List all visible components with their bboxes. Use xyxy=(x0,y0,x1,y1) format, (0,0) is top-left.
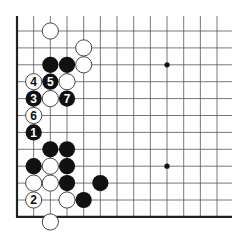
white-stone xyxy=(59,192,75,208)
black-stone xyxy=(59,141,75,157)
white-stone xyxy=(76,40,92,56)
black-stone-icon xyxy=(42,141,58,157)
white-stone xyxy=(42,23,58,39)
black-stone-7: 7 xyxy=(59,91,75,107)
white-stone-2: 2 xyxy=(26,192,42,208)
white-stone xyxy=(42,91,58,107)
black-stone xyxy=(59,57,75,73)
star-point-icon xyxy=(164,62,169,67)
move-number: 6 xyxy=(30,109,37,123)
black-stone-icon xyxy=(76,192,92,208)
black-stone-icon xyxy=(59,141,75,157)
go-board-svg: 4537612 xyxy=(0,0,247,233)
black-stone xyxy=(42,57,58,73)
white-stone-icon xyxy=(59,192,75,208)
move-number: 4 xyxy=(30,75,37,89)
white-stone-icon xyxy=(76,57,92,73)
black-stone-3: 3 xyxy=(26,91,42,107)
black-stone xyxy=(59,158,75,174)
white-stone-icon xyxy=(42,23,58,39)
black-stone xyxy=(76,192,92,208)
white-stone-icon xyxy=(26,175,42,191)
go-board-diagram: 4537612 xyxy=(0,0,247,233)
white-stone xyxy=(42,158,58,174)
white-stone-icon xyxy=(42,175,58,191)
white-stone-4: 4 xyxy=(26,74,42,90)
white-stone-icon xyxy=(42,158,58,174)
star-point-icon xyxy=(164,164,169,169)
black-stone xyxy=(92,175,108,191)
black-stone-1: 1 xyxy=(26,124,42,140)
black-stone-icon xyxy=(59,175,75,191)
white-stone xyxy=(42,175,58,191)
move-number: 1 xyxy=(30,126,37,140)
black-stone-icon xyxy=(92,175,108,191)
white-stone-icon xyxy=(42,214,58,230)
black-stone xyxy=(42,141,58,157)
white-stone-icon xyxy=(76,40,92,56)
white-stone-icon xyxy=(59,74,75,90)
black-stone-5: 5 xyxy=(42,74,58,90)
black-stone-icon xyxy=(59,57,75,73)
white-stone xyxy=(59,74,75,90)
white-stone xyxy=(76,57,92,73)
white-stone xyxy=(42,214,58,230)
black-stone-icon xyxy=(26,158,42,174)
white-stone-6: 6 xyxy=(26,107,42,123)
white-stone-icon xyxy=(42,91,58,107)
black-stone xyxy=(59,175,75,191)
black-stone xyxy=(26,158,42,174)
black-stone-icon xyxy=(42,57,58,73)
move-number: 5 xyxy=(47,75,54,89)
white-stone xyxy=(26,175,42,191)
move-number: 7 xyxy=(64,92,71,106)
move-number: 2 xyxy=(30,193,37,207)
black-stone-icon xyxy=(59,158,75,174)
move-number: 3 xyxy=(30,92,37,106)
